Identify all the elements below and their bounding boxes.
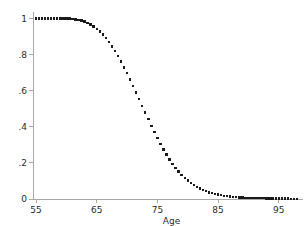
data-point <box>235 196 237 198</box>
data-point <box>165 153 167 155</box>
data-point <box>96 28 98 30</box>
data-point <box>59 17 61 19</box>
y-tick-label: 1 <box>21 14 27 24</box>
data-point <box>180 174 182 176</box>
data-point <box>86 22 88 24</box>
x-tick-label: 95 <box>273 205 284 215</box>
data-point <box>229 195 231 197</box>
data-point <box>114 50 116 52</box>
data-point <box>287 197 289 199</box>
data-point <box>238 196 240 198</box>
data-point <box>275 197 277 199</box>
data-point <box>77 19 79 21</box>
data-point <box>284 197 286 199</box>
data-point <box>141 105 143 107</box>
x-tick-label: 75 <box>152 205 163 215</box>
data-point <box>226 195 228 197</box>
scatter-plot-figure: 0.2.4.6.81 5565758595 Age <box>0 0 306 226</box>
data-point <box>256 197 258 199</box>
data-point <box>214 193 216 195</box>
data-point <box>253 197 255 199</box>
data-point <box>53 17 55 19</box>
data-point <box>129 78 131 80</box>
data-point <box>171 163 173 165</box>
data-point <box>102 33 104 35</box>
plot-canvas: 0.2.4.6.81 5565758595 Age <box>0 0 306 226</box>
data-point <box>290 198 292 200</box>
data-point <box>159 143 161 145</box>
data-point <box>83 20 85 22</box>
data-point <box>244 197 246 199</box>
data-point <box>44 17 46 19</box>
x-tick-label: 85 <box>212 205 223 215</box>
data-point <box>89 23 91 25</box>
data-point <box>105 37 107 39</box>
data-point <box>71 18 73 20</box>
data-point <box>232 196 234 198</box>
y-tick-label: .4 <box>18 122 27 132</box>
data-point <box>278 197 280 199</box>
data-point <box>241 196 243 198</box>
data-point <box>156 137 158 139</box>
x-axis-title: Age <box>163 216 181 226</box>
data-point <box>259 197 261 199</box>
data-point <box>147 118 149 120</box>
data-point <box>271 197 273 199</box>
data-point <box>62 17 64 19</box>
data-point <box>211 192 213 194</box>
data-point <box>108 41 110 43</box>
data-point <box>184 177 186 179</box>
data-point <box>265 197 267 199</box>
y-tick-label: .8 <box>18 50 27 60</box>
data-point <box>293 198 295 200</box>
data-point <box>220 194 222 196</box>
data-point <box>35 17 37 19</box>
data-point <box>202 189 204 191</box>
data-point <box>92 25 94 27</box>
data-point <box>250 197 252 199</box>
data-point <box>223 195 225 197</box>
data-point <box>144 111 146 113</box>
data-point <box>296 198 298 200</box>
data-point <box>199 187 201 189</box>
data-point <box>80 19 82 21</box>
data-point <box>208 191 210 193</box>
data-point <box>38 17 40 19</box>
data-point <box>138 98 140 100</box>
y-tick-label: .6 <box>18 86 27 96</box>
data-series-points <box>35 17 298 200</box>
data-point <box>56 17 58 19</box>
y-tick-label: .2 <box>18 158 27 168</box>
data-point <box>190 182 192 184</box>
data-point <box>281 197 283 199</box>
data-point <box>247 197 249 199</box>
data-point <box>74 18 76 20</box>
data-point <box>111 45 113 47</box>
data-point <box>187 179 189 181</box>
y-axis: 0.2.4.6.81 <box>18 12 33 204</box>
data-point <box>47 17 49 19</box>
data-point <box>217 193 219 195</box>
data-point <box>162 148 164 150</box>
data-point <box>117 55 119 57</box>
x-axis: 5565758595 <box>30 199 303 215</box>
data-point <box>99 30 101 32</box>
data-point <box>168 158 170 160</box>
data-point <box>65 17 67 19</box>
data-point <box>123 66 125 68</box>
data-point <box>135 91 137 93</box>
data-point <box>262 197 264 199</box>
y-tick-label: 0 <box>21 194 27 204</box>
data-point <box>193 184 195 186</box>
data-point <box>68 17 70 19</box>
data-point <box>177 170 179 172</box>
data-point <box>205 190 207 192</box>
data-point <box>268 197 270 199</box>
data-point <box>50 17 52 19</box>
x-tick-label: 65 <box>91 205 102 215</box>
data-point <box>150 125 152 127</box>
data-point <box>120 60 122 62</box>
data-point <box>132 85 134 87</box>
data-point <box>174 167 176 169</box>
x-tick-label: 55 <box>30 205 41 215</box>
